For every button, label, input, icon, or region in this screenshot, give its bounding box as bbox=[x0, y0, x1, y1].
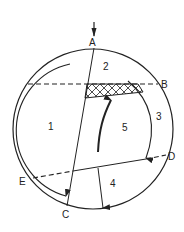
input-arrowhead-icon bbox=[92, 28, 97, 37]
dashed-line-e bbox=[33, 171, 73, 178]
label-region-4: 4 bbox=[110, 178, 116, 189]
label-point-e: E bbox=[19, 176, 26, 187]
label-region-5: 5 bbox=[122, 122, 128, 133]
region-5-arrow bbox=[98, 100, 111, 152]
label-region-2: 2 bbox=[103, 61, 109, 72]
label-region-1: 1 bbox=[48, 121, 54, 132]
label-point-c: C bbox=[62, 209, 69, 220]
label-point-a: A bbox=[89, 37, 96, 48]
region-4-arrow bbox=[98, 168, 103, 208]
outer-circle bbox=[13, 49, 173, 209]
line-to-d bbox=[73, 159, 146, 171]
label-point-b: B bbox=[161, 79, 168, 90]
label-point-d: D bbox=[168, 151, 175, 162]
circle-section-diagram: A B C D E 1 2 3 4 5 bbox=[0, 0, 184, 232]
line-a-c bbox=[67, 48, 94, 206]
dashed-line-d bbox=[146, 155, 166, 159]
diagram-canvas: A B C D E 1 2 3 4 5 bbox=[0, 0, 184, 232]
hatched-region bbox=[85, 84, 143, 98]
label-region-3: 3 bbox=[156, 111, 162, 122]
